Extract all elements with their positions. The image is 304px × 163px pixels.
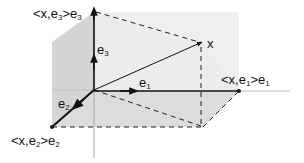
label-proj-e3: <x,e3>e3	[33, 7, 82, 22]
proj-e1-point	[237, 89, 241, 93]
label-proj-e2: <x,e2>e2	[11, 134, 60, 149]
label-proj-e1: <x,e1>e1	[221, 73, 270, 88]
label-e2: e2	[58, 97, 70, 112]
label-x: x	[207, 37, 214, 50]
proj-e2-point	[50, 125, 54, 129]
label-e1: e1	[139, 76, 151, 91]
projection-diagram: x e3 e1 e2 <x,e3>e3 <x,e1>e1 <x,e2>e2	[0, 0, 304, 163]
label-e3: e3	[97, 43, 109, 58]
